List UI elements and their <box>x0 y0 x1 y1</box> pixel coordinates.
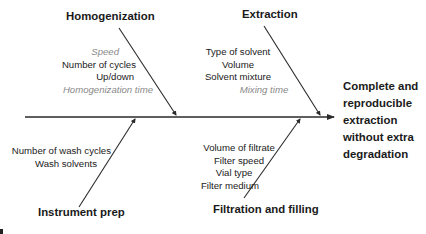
category-title-extraction: Extraction <box>242 8 298 20</box>
category-title-instrument-prep: Instrument prep <box>38 206 125 218</box>
factor-mixing-time: Mixing time <box>228 84 300 96</box>
factor-number-of-wash-cycles: Number of wash cycles <box>12 145 111 157</box>
factor-speed: Speed <box>91 46 119 58</box>
outcome-line: extraction <box>343 112 418 129</box>
factor-solvent-mixture: Solvent mixture <box>198 71 278 83</box>
factor-number-of-cycles: Number of cycles <box>62 59 136 71</box>
factor-filter-medium: Filter medium <box>190 180 270 192</box>
factor-volume-of-filtrate: Volume of filtrate <box>194 142 284 154</box>
factor-volume: Volume <box>198 59 278 71</box>
outcome-line: reproducible <box>343 95 418 112</box>
outcome-line: degradation <box>343 146 418 163</box>
category-title-filtration-filling: Filtration and filling <box>213 203 319 215</box>
outcome-line: without extra <box>343 129 418 146</box>
factor-vial-type: Vial type <box>194 167 274 179</box>
outcome-label: Complete and reproducible extraction wit… <box>343 78 418 163</box>
factor-filter-speed: Filter speed <box>194 155 284 167</box>
category-title-homogenization: Homogenization <box>66 10 155 22</box>
factor-type-of-solvent: Type of solvent <box>198 46 278 58</box>
factor-homogenization-time: Homogenization time <box>63 84 153 96</box>
factor-up-down: Up/down <box>96 71 134 83</box>
panel-letter-fragment <box>0 229 3 234</box>
factor-wash-solvents: Wash solvents <box>35 158 97 170</box>
outcome-line: Complete and <box>343 78 418 95</box>
